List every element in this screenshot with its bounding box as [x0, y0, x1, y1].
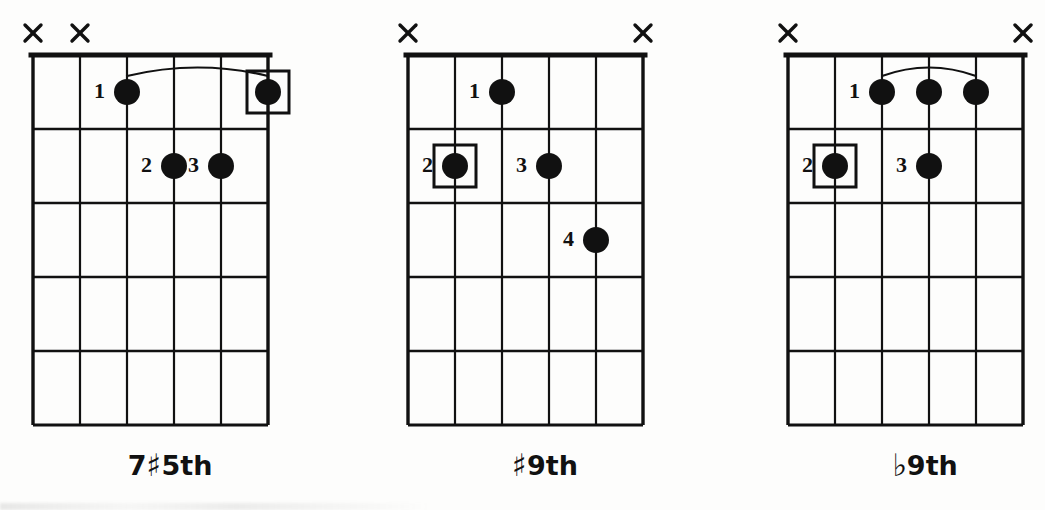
chord-diagram-2: 1234 ♯9th — [375, 0, 715, 510]
finger-number-1: 1 — [94, 78, 105, 103]
chord-sheet: 123 7♯5th 1234 ♯9th 123 ♭9th — [0, 0, 1045, 510]
finger-number-3: 3 — [896, 152, 907, 177]
chord-label-3: ♭9th — [755, 446, 1045, 482]
mute-x-icon-string-1 — [635, 25, 651, 41]
mute-x-icon-string-6 — [780, 25, 796, 41]
finger-dot-string-1-fret-1 — [255, 79, 281, 105]
finger-dot-string-5-fret-2 — [822, 153, 848, 179]
finger-number-2: 2 — [802, 152, 813, 177]
mute-x-icon-string-6 — [400, 25, 416, 41]
chord-label-1-suffix: 5th — [161, 450, 212, 481]
chord-diagram-1-graphic: 123 — [0, 0, 340, 450]
mute-x-icon-string-5 — [72, 25, 88, 41]
finger-number-1: 1 — [469, 78, 480, 103]
chord-label-1: 7♯5th — [0, 446, 340, 482]
finger-number-1: 1 — [849, 78, 860, 103]
chord-diagram-3-graphic: 123 — [755, 0, 1045, 450]
mute-x-icon-string-1 — [1015, 25, 1031, 41]
sharp-symbol-icon-1: ♯ — [146, 447, 161, 483]
chord-label-2-suffix: 9th — [527, 450, 578, 481]
finger-dot-string-3-fret-2 — [536, 153, 562, 179]
finger-dot-string-3-fret-2 — [916, 153, 942, 179]
finger-number-2: 2 — [422, 152, 433, 177]
chord-diagram-1: 123 7♯5th — [0, 0, 340, 510]
finger-dot-string-2-fret-2 — [208, 153, 234, 179]
chord-label-1-prefix: 7 — [128, 450, 147, 481]
finger-dot-string-3-fret-1 — [916, 79, 942, 105]
finger-dot-string-4-fret-1 — [489, 79, 515, 105]
finger-number-3: 3 — [516, 152, 527, 177]
mute-x-icon-string-6 — [25, 25, 41, 41]
chord-diagram-3: 123 ♭9th — [755, 0, 1045, 510]
scan-artifact — [0, 503, 430, 510]
finger-dot-string-4-fret-1 — [869, 79, 895, 105]
finger-dot-string-3-fret-2 — [161, 153, 187, 179]
chord-label-2: ♯9th — [375, 446, 715, 482]
finger-number-3: 3 — [188, 152, 199, 177]
flat-symbol-icon-3: ♭ — [892, 447, 907, 483]
chord-label-3-suffix: 9th — [907, 450, 958, 481]
finger-number-2: 2 — [141, 152, 152, 177]
finger-number-4: 4 — [563, 226, 574, 251]
chord-diagram-2-graphic: 1234 — [375, 0, 715, 450]
finger-dot-string-4-fret-1 — [114, 79, 140, 105]
finger-dot-string-2-fret-1 — [963, 79, 989, 105]
finger-dot-string-2-fret-3 — [583, 227, 609, 253]
sharp-symbol-icon-2: ♯ — [512, 447, 527, 483]
finger-dot-string-5-fret-2 — [442, 153, 468, 179]
